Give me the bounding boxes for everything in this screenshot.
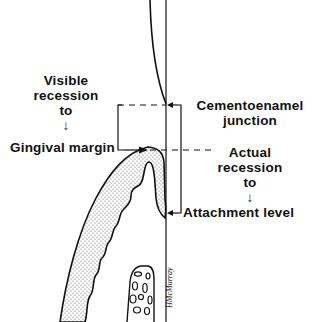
cej-arrowhead <box>167 102 173 108</box>
crown-outline <box>150 0 166 104</box>
down-arrow-icon: ↓ <box>0 118 132 133</box>
attachment-level-label: Attachment level <box>183 205 294 220</box>
attachment-arrowhead <box>167 210 173 216</box>
visible-recession-label: Visible recession to ↓ <box>0 73 132 133</box>
down-arrow-icon: ↓ <box>188 190 312 205</box>
actual-recession-bracket <box>178 105 181 213</box>
gingival-margin-label: Gingival margin <box>10 140 115 155</box>
cej-label: Cementoenamel junction <box>182 98 318 128</box>
artist-signature: HMcMurray <box>165 267 174 309</box>
actual-recession-label: Actual recession to ↓ <box>188 145 312 205</box>
